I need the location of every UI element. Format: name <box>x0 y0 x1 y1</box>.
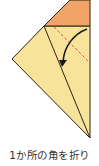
origami-fold-diagram <box>0 0 99 145</box>
step-caption: 1か所の角を折り <box>0 147 99 163</box>
folded-corner-triangle <box>44 0 90 26</box>
